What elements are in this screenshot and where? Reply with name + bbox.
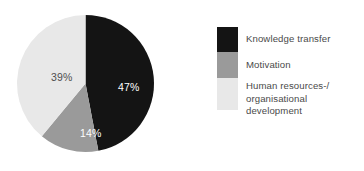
pie-label-human-resources: 39% <box>51 72 73 83</box>
legend-label-human-resources: Human resources-/ organisational develop… <box>238 78 364 118</box>
legend-label-human-resources-line2: organisational development <box>246 93 364 118</box>
legend-item-human-resources[interactable]: Human resources-/ organisational develop… <box>217 78 364 110</box>
pie-label-knowledge-transfer: 47% <box>118 82 140 93</box>
legend-label-knowledge-transfer: Knowledge transfer <box>238 27 364 46</box>
legend-swatch-knowledge-transfer-icon <box>217 27 238 52</box>
legend-label-human-resources-line1: Human resources-/ <box>246 80 329 91</box>
legend-label-motivation: Motivation <box>238 52 364 72</box>
legend-swatch-motivation-icon <box>217 52 238 78</box>
legend-item-motivation[interactable]: Motivation <box>217 52 364 78</box>
chart-legend: Knowledge transfer Motivation Human reso… <box>217 27 364 110</box>
pie-chart: 47% 14% 39% <box>14 10 160 160</box>
legend-swatch-human-resources-icon <box>217 78 238 110</box>
legend-item-knowledge-transfer[interactable]: Knowledge transfer <box>217 27 364 52</box>
pie-chart-figure: 47% 14% 39% Knowledge transfer Motivatio… <box>0 0 364 171</box>
pie-label-motivation: 14% <box>80 128 102 139</box>
